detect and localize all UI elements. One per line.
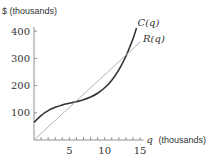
chart: $ (thousands) 100200300400 51015 C(q)R(q… <box>0 0 211 166</box>
x-tick-label: 5 <box>66 145 72 156</box>
y-tick-label: 300 <box>11 53 30 64</box>
y-axis-title: $ (thousands) <box>2 6 57 16</box>
series-group: C(q)R(q) <box>34 17 165 140</box>
x-tick-label: 15 <box>134 145 147 156</box>
x-axis-title: q (thousands) <box>147 134 206 145</box>
y-tick-label: 100 <box>11 107 30 118</box>
x-tick-label: 10 <box>98 145 111 156</box>
y-tick-label: 200 <box>11 80 30 91</box>
series-line-cost <box>34 28 137 122</box>
y-ticks: 100200300400 <box>11 26 37 119</box>
series-label-revenue: R(q) <box>142 33 165 44</box>
y-tick-label: 400 <box>11 26 30 37</box>
x-axis-var: q <box>147 134 153 145</box>
series-line-revenue <box>34 42 140 140</box>
series-label-cost: C(q) <box>138 17 160 28</box>
x-axis-unit: (thousands) <box>159 135 207 145</box>
